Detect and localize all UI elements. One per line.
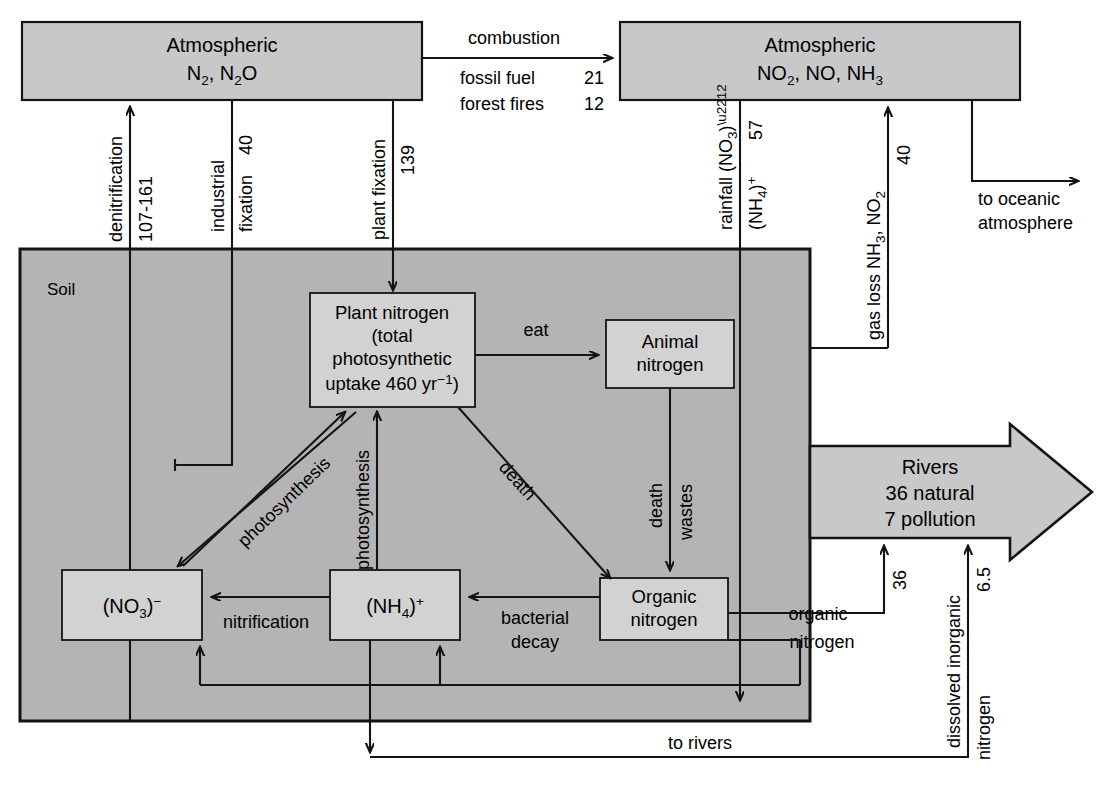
animal-nitrogen-line2: nitrogen (637, 354, 704, 375)
denitrification-label: denitrification (106, 136, 126, 242)
death-wastes-label2: wastes (676, 484, 696, 541)
nitrogen-cycle-diagram: Soil Atmospheric N2, N2O Atmospheric NO2… (0, 0, 1111, 788)
plant-fixation-label: plant fixation (369, 139, 389, 240)
dissolved-inorganic-label2: nitrogen (974, 695, 994, 760)
industrial-fixation-value: 40 (236, 135, 256, 155)
animal-nitrogen-line1: Animal (642, 331, 699, 352)
atmospheric-right-line1: Atmospheric (764, 34, 875, 56)
dissolved-inorganic-label1: dissolved inorganic (944, 595, 964, 748)
death-wastes-label1: death (646, 483, 666, 528)
bacterial-decay-label2: decay (511, 632, 559, 652)
organic-nitrogen-line2: nitrogen (631, 609, 698, 630)
eat-label: eat (523, 320, 548, 340)
organic-nitrogen-line1: Organic (632, 586, 697, 607)
denitrification-value: 107-161 (136, 176, 156, 242)
rainfall-species2: (NH4)+ (744, 176, 770, 230)
fossil-fuel-label: fossil fuel (460, 68, 535, 88)
rainfall-label: rainfall (NO3)\u2212 (714, 84, 740, 230)
industrial-fixation-label2: fixation (236, 175, 256, 232)
to-rivers-label: to rivers (668, 733, 732, 753)
dissolved-inorganic-value: 6.5 (974, 567, 994, 592)
rivers-line1: Rivers (902, 456, 959, 478)
organic-nitrogen-flow-label1: organic (788, 604, 847, 624)
gas-loss-label: gas loss NH3, NO2 (864, 191, 888, 340)
plant-nitrogen-line3: photosynthetic (332, 348, 451, 369)
to-oceanic-line1: to oceanic (978, 189, 1060, 209)
forest-fires-label: forest fires (460, 94, 544, 114)
rivers-line3: 7 pollution (884, 508, 975, 530)
to-oceanic-line2: atmosphere (978, 213, 1073, 233)
bacterial-decay-label1: bacterial (501, 608, 569, 628)
organic-nitrogen-flow-value: 36 (890, 570, 910, 590)
to-oceanic-arrow (972, 100, 1078, 181)
rainfall-value: 57 (746, 120, 766, 140)
plant-fixation-value: 139 (398, 145, 418, 175)
rivers-line2: 36 natural (886, 482, 975, 504)
soil-label: Soil (47, 280, 75, 299)
nitrification-label: nitrification (223, 612, 309, 632)
atmospheric-left-line1: Atmospheric (166, 34, 277, 56)
industrial-fixation-label1: industrial (208, 160, 228, 232)
combustion-label: combustion (468, 28, 560, 48)
fossil-fuel-value: 21 (584, 68, 604, 88)
photosynthesis-vertical-label: photosynthesis (353, 450, 373, 570)
plant-nitrogen-line2: (total (371, 325, 412, 346)
plant-nitrogen-line1: Plant nitrogen (335, 302, 449, 323)
gas-loss-value: 40 (894, 145, 914, 165)
forest-fires-value: 12 (584, 94, 604, 114)
diagram-canvas: Soil Atmospheric N2, N2O Atmospheric NO2… (0, 0, 1111, 788)
ammonium-label: (NH4)+ (366, 594, 424, 621)
nitrate-label: (NO3)− (103, 594, 162, 621)
